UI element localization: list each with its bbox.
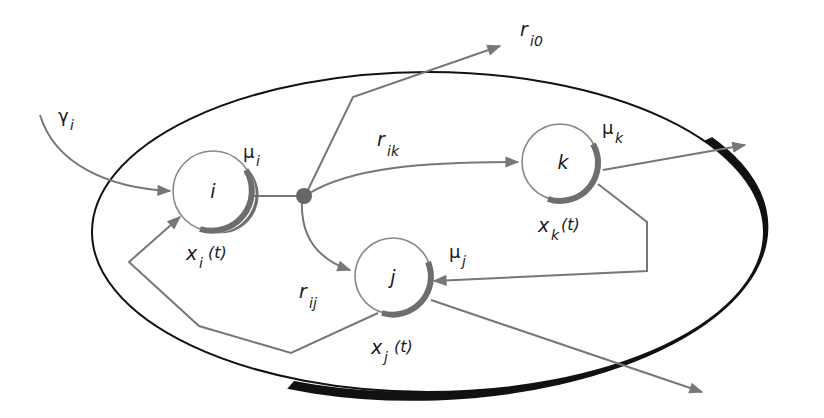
svg-text:k: k [615,130,624,146]
node-k-label: k [557,151,569,173]
svg-text:x: x [370,336,383,358]
label-r-i0: r i0 [520,18,543,49]
svg-text:(t): (t) [208,243,227,262]
svg-text:r: r [377,128,386,150]
label-gamma-i: γ i [58,105,74,133]
svg-text:r: r [299,280,308,302]
svg-text:x: x [185,242,198,264]
svg-text:ij: ij [309,295,317,311]
svg-text:μ: μ [243,141,255,162]
svg-text:i: i [256,153,260,169]
network-diagram: i k j γ i μ i x i (t) r i0 r ik r ij [0,0,824,418]
svg-text:i: i [199,255,203,271]
svg-text:k: k [551,227,560,243]
svg-text:μ: μ [602,117,614,138]
svg-text:r: r [520,18,529,40]
svg-text:(t): (t) [394,337,413,356]
svg-text:μ: μ [449,241,461,262]
node-j[interactable]: j [355,238,431,315]
junction-node [296,188,312,204]
svg-text:x: x [537,214,550,236]
svg-text:ik: ik [387,143,400,159]
svg-text:i0: i0 [530,33,543,49]
diagram-canvas: i k j γ i μ i x i (t) r i0 r ik r ij [0,0,824,418]
node-k[interactable]: k [522,124,598,201]
svg-text:(t): (t) [561,215,580,234]
system-boundary-ellipse [92,64,769,407]
node-i-label: i [210,180,216,202]
svg-text:γ: γ [58,105,69,126]
svg-text:i: i [70,117,74,133]
